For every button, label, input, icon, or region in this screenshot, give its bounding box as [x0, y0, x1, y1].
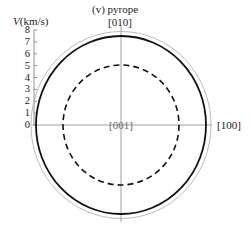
y-tick-label: 7: [20, 37, 30, 47]
direction-label-010: [010]: [108, 17, 132, 28]
y-tick-label: 6: [20, 49, 30, 59]
y-tick-label: 8: [20, 25, 30, 35]
y-tick-label: 3: [20, 84, 30, 94]
y-tick-label: 0: [20, 120, 30, 130]
y-tick-label: 5: [20, 61, 30, 71]
y-tick-label: 1: [20, 108, 30, 118]
y-tick-label: 4: [20, 73, 30, 83]
direction-label-001: [001]: [109, 120, 133, 131]
y-axis-label: V(km/s): [13, 16, 48, 27]
y-axis-variable: V: [13, 15, 20, 27]
polar-velocity-chart: (v) pyrope [010] [100] [001] V(km/s) 0 1…: [0, 0, 251, 228]
chart-title: (v) pyrope: [92, 4, 138, 15]
y-tick-label: 2: [20, 96, 30, 106]
chart-canvas: [0, 0, 251, 228]
direction-label-100: [100]: [217, 120, 241, 131]
